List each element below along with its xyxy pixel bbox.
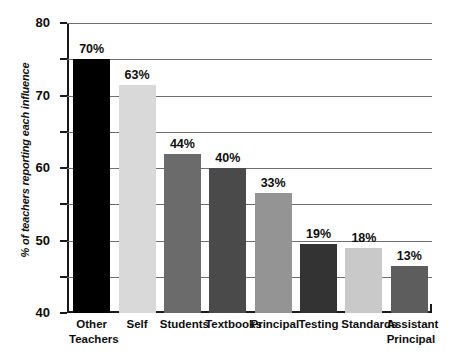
y-axis-title: % of teachers reporting each influence	[14, 10, 36, 310]
x-category-label-line: Principal	[387, 332, 432, 347]
x-category-label-line: Textbooks	[205, 317, 250, 332]
bar-value-label: 40%	[215, 151, 240, 165]
bar[interactable]	[164, 154, 201, 314]
x-category-label: OtherTeachers	[69, 317, 114, 347]
x-category-label-line: Self	[114, 317, 159, 332]
bar-slot: 70%	[73, 23, 110, 313]
bar-value-label: 19%	[306, 227, 331, 241]
x-category-label: AssistantPrincipal	[387, 317, 432, 347]
x-category-label: Testing	[296, 317, 341, 332]
bar[interactable]	[209, 168, 246, 313]
y-tick-40: 40	[60, 167, 67, 169]
bar[interactable]	[73, 59, 110, 313]
y-tick-70: 70	[60, 58, 67, 60]
y-tick-50: 50	[60, 131, 67, 133]
bar[interactable]	[391, 266, 428, 313]
bar-slot: 63%	[119, 23, 156, 313]
bar[interactable]	[255, 193, 292, 313]
x-category-label-line: Students	[160, 317, 205, 332]
y-tick-label-70: 70	[36, 87, 50, 102]
y-tick-label-40: 40	[36, 305, 50, 320]
x-category-label-line: Principal	[251, 317, 296, 332]
bar-slot: 18%	[345, 23, 382, 313]
bar-slot: 33%	[255, 23, 292, 313]
bar-slot: 44%	[164, 23, 201, 313]
x-category-label: Textbooks	[205, 317, 250, 332]
bar-slot: 13%	[391, 23, 428, 313]
bar[interactable]	[345, 248, 382, 313]
plot-area: 01020304050607080 70%63%44%40%33%19%18%1…	[67, 23, 432, 313]
x-category-label: Students	[160, 317, 205, 332]
bar-value-label: 63%	[125, 68, 150, 82]
bar-slot: 40%	[209, 23, 246, 313]
y-tick-60: 60	[60, 95, 67, 97]
bar[interactable]	[300, 244, 337, 313]
y-tick-20: 20	[60, 240, 67, 242]
bar-chart: % of teachers reporting each influence 0…	[0, 0, 456, 362]
x-category-label-line: Testing	[296, 317, 341, 332]
y-tick-30: 30	[60, 203, 67, 205]
bar-value-label: 18%	[351, 231, 376, 245]
y-tick-10: 10	[60, 276, 67, 278]
x-axis-category-labels: OtherTeachersSelfStudentsTextbooksPrinci…	[69, 317, 432, 362]
bar-slot: 19%	[300, 23, 337, 313]
bar[interactable]	[119, 85, 156, 313]
x-category-label: Standards	[341, 317, 386, 332]
bars-layer: 70%63%44%40%33%19%18%13%	[69, 23, 432, 313]
x-category-label-line: Standards	[341, 317, 386, 332]
bar-value-label: 70%	[79, 42, 104, 56]
bar-value-label: 33%	[261, 176, 286, 190]
y-tick-label-60: 60	[36, 160, 50, 175]
x-category-label: Self	[114, 317, 159, 332]
x-category-label-line: Assistant	[387, 317, 432, 332]
bar-value-label: 13%	[397, 249, 422, 263]
y-tick-0: 0	[60, 312, 67, 314]
bar-value-label: 44%	[170, 137, 195, 151]
x-category-label-line: Teachers	[69, 332, 114, 347]
y-tick-label-80: 80	[36, 15, 50, 30]
x-category-label: Principal	[251, 317, 296, 332]
y-tick-80: 80	[60, 22, 67, 24]
y-tick-label-50: 50	[36, 232, 50, 247]
x-category-label-line: Other	[69, 317, 114, 332]
